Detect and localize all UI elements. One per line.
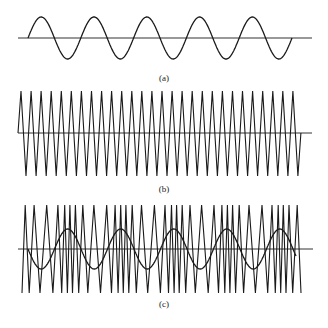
waveform-figure xyxy=(0,0,328,328)
panel-a xyxy=(18,17,312,59)
panel-b-label: (b) xyxy=(159,184,170,194)
panel-c-label: (c) xyxy=(159,299,169,309)
panel-b xyxy=(18,91,312,176)
panel-a-label: (a) xyxy=(159,73,169,83)
panel-c xyxy=(18,205,313,293)
